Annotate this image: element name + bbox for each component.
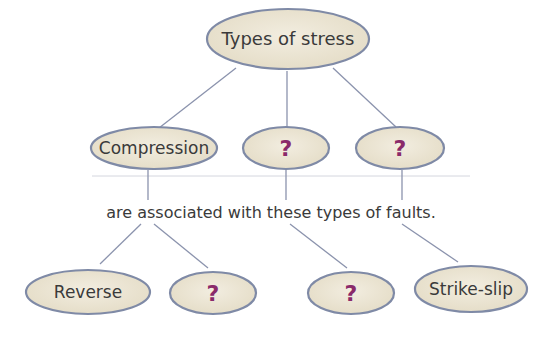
question-mark: ? [345,281,358,306]
node-stress-unknown-1: ? [243,127,329,169]
node-compression: Compression [91,127,217,169]
bridge-text: are associated with these types of fault… [106,203,436,222]
link-to-reverse [100,224,141,264]
question-mark: ? [394,136,407,161]
question-mark: ? [280,136,293,161]
node-fault-unknown-1: ? [170,272,256,314]
link-to-strike-slip [402,224,458,262]
node-label: Strike-slip [429,279,513,299]
node-reverse: Reverse [26,270,150,314]
node-strike-slip: Strike-slip [415,266,527,312]
node-stress-unknown-2: ? [356,127,444,169]
question-mark: ? [207,281,220,306]
link-root-stress-3 [333,68,396,127]
node-label: Compression [99,138,209,158]
link-root-compression [159,68,236,128]
concept-map: Types of stress Compression ? ? are asso… [0,0,541,344]
node-fault-unknown-2: ? [308,272,394,314]
node-types-of-stress: Types of stress [207,9,369,69]
node-label: Reverse [54,282,122,302]
node-label: Types of stress [221,28,355,49]
link-to-fault-3 [290,224,347,268]
link-to-fault-2 [154,224,208,268]
